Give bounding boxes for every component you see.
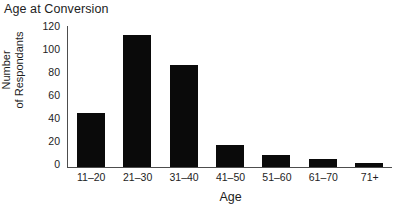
y-tick-80: 80 (30, 67, 60, 78)
x-tick-41–50: 41–50 (207, 171, 253, 183)
x-axis-tick-labels: 11–2021–3031–4041–5051–6061–7071+ (68, 171, 393, 183)
y-tick-0: 0 (30, 159, 60, 170)
bar-31–40[interactable] (170, 65, 198, 167)
y-axis-label: Number of Respondants (0, 10, 28, 130)
plot-area (67, 26, 392, 168)
x-tick-51–60: 51–60 (254, 171, 300, 183)
bar-slot (207, 26, 253, 167)
x-tick-61–70: 61–70 (300, 171, 346, 183)
bar-slot (114, 26, 160, 167)
bar-slot (253, 26, 299, 167)
x-tick-31–40: 31–40 (161, 171, 207, 183)
bar-51–60[interactable] (262, 155, 290, 167)
y-tick-120: 120 (30, 21, 60, 32)
x-tick-71+: 71+ (347, 171, 393, 183)
bar-71+[interactable] (355, 163, 383, 167)
y-axis-label-line-2: of Respondants (13, 31, 26, 108)
y-axis-label-line-1: Number (0, 50, 13, 89)
bar-series (68, 26, 392, 167)
bar-slot (68, 26, 114, 167)
bar-slot (299, 26, 345, 167)
bar-21–30[interactable] (123, 35, 151, 167)
y-tick-20: 20 (30, 136, 60, 147)
bar-chart-figure: Age at Conversion Number of Respondants … (0, 0, 399, 215)
bar-41–50[interactable] (216, 145, 244, 167)
bar-61–70[interactable] (309, 159, 337, 167)
x-axis-line (67, 167, 392, 168)
y-tick-40: 40 (30, 113, 60, 124)
y-tick-100: 100 (30, 44, 60, 55)
x-tick-21–30: 21–30 (114, 171, 160, 183)
bar-11–20[interactable] (77, 113, 105, 167)
x-tick-11–20: 11–20 (68, 171, 114, 183)
x-axis-label: Age (68, 190, 393, 205)
y-tick-60: 60 (30, 90, 60, 101)
bar-slot (346, 26, 392, 167)
y-axis-tick-labels: 120 100 80 60 40 20 0 (28, 26, 60, 168)
bar-slot (161, 26, 207, 167)
